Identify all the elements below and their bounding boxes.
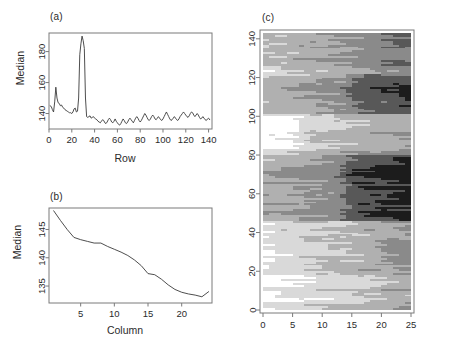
panel-b: (b) Median Column 5101520135140145 <box>0 175 230 349</box>
x-tick-label: 25 <box>406 319 417 330</box>
x-tick-label: 5 <box>290 319 295 330</box>
y-tick-label: 160 <box>37 75 48 91</box>
panel-b-plot: 5101520135140145 <box>0 175 230 349</box>
data-series-line <box>50 36 210 125</box>
y-tick-label: 145 <box>37 222 48 238</box>
panel-c-label: (c) <box>262 12 274 23</box>
x-tick-label: 15 <box>347 319 358 330</box>
y-tick-label: 180 <box>37 44 48 60</box>
y-tick-label: 140 <box>247 31 258 47</box>
x-tick-label: 120 <box>178 134 194 145</box>
panel-c-heatmap-image <box>263 33 411 310</box>
panel-a-x-axis-title: Row <box>70 152 180 164</box>
y-tick-label: 140 <box>37 250 48 266</box>
y-tick-label: 40 <box>247 227 258 238</box>
x-tick-label: 15 <box>143 308 154 319</box>
panel-a-plot: 020406080100120140140160180 <box>0 0 230 175</box>
x-tick-label: 0 <box>46 134 51 145</box>
panel-a-y-axis-title: Median <box>14 38 26 98</box>
y-tick-label: 140 <box>37 106 48 122</box>
y-tick-label: 100 <box>247 108 258 124</box>
panel-a: (a) Median Row 0204060801001201401401601… <box>0 0 230 175</box>
x-tick-label: 140 <box>201 134 217 145</box>
panel-b-x-axis-title: Column <box>65 324 185 336</box>
plot-frame <box>49 208 212 303</box>
x-tick-label: 20 <box>67 134 78 145</box>
figure-container: (a) Median Row 0204060801001201401401601… <box>0 0 449 349</box>
y-tick-label: 0 <box>247 307 258 312</box>
x-tick-label: 60 <box>112 134 123 145</box>
x-tick-label: 80 <box>135 134 146 145</box>
y-tick-label: 120 <box>247 70 258 86</box>
x-tick-label: 5 <box>78 308 83 319</box>
x-tick-label: 40 <box>89 134 100 145</box>
panel-a-label: (a) <box>50 11 63 22</box>
x-tick-label: 10 <box>317 319 328 330</box>
panel-b-y-axis-title: Median <box>11 212 23 272</box>
data-series-line <box>54 211 209 297</box>
x-tick-label: 20 <box>176 308 187 319</box>
y-tick-label: 80 <box>247 150 258 161</box>
x-tick-label: 20 <box>376 319 387 330</box>
plot-frame <box>49 33 212 129</box>
y-tick-label: 135 <box>37 278 48 294</box>
x-tick-label: 10 <box>109 308 120 319</box>
x-tick-label: 100 <box>155 134 171 145</box>
y-tick-label: 60 <box>247 188 258 199</box>
y-tick-label: 20 <box>247 266 258 277</box>
x-tick-label: 0 <box>260 319 265 330</box>
panel-c: (c) 0510152025020406080100120140 <box>230 0 449 349</box>
panel-b-label: (b) <box>50 191 63 202</box>
